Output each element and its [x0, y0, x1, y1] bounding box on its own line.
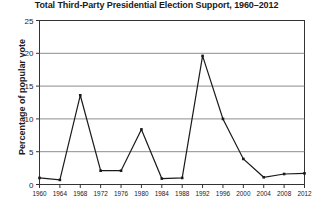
data-point-2000-3.9: [242, 158, 245, 161]
x-tick-label-2008: 2008: [277, 190, 292, 197]
x-tick-label-2012: 2012: [297, 190, 312, 197]
data-point-1960-1: [38, 177, 41, 180]
y-axis-ticks: 0510152025: [25, 17, 40, 190]
data-point-1972-2.1: [99, 169, 102, 172]
plot-frame: [40, 21, 305, 185]
y-tick-label-5: 5: [29, 148, 34, 157]
y-tick-label-25: 25: [25, 17, 34, 26]
data-point-2012-1.7: [303, 172, 306, 175]
x-tick-label-1988: 1988: [175, 190, 190, 197]
data-point-1968-13.6: [79, 94, 82, 97]
x-tick-label-1964: 1964: [53, 190, 68, 197]
data-point-1988-1: [181, 177, 184, 180]
data-point-2004-1.1: [262, 176, 265, 179]
data-point-1980-8.4: [140, 128, 143, 131]
x-tick-label-2004: 2004: [257, 190, 272, 197]
x-tick-label-1980: 1980: [134, 190, 149, 197]
x-tick-label-1960: 1960: [32, 190, 47, 197]
x-tick-label-1984: 1984: [155, 190, 170, 197]
x-tick-label-1992: 1992: [195, 190, 210, 197]
x-axis-ticks: 1960196419681972197619801984198819921996…: [32, 185, 312, 198]
y-tick-label-0: 0: [29, 181, 34, 190]
y-tick-label-20: 20: [25, 49, 34, 58]
data-point-1992-19.6: [201, 55, 204, 58]
x-tick-label-1996: 1996: [216, 190, 231, 197]
data-point-1984-0.9: [161, 177, 164, 180]
y-tick-label-10: 10: [25, 115, 34, 124]
plot-area: 0510152025 19601964196819721976198019841…: [0, 0, 313, 199]
x-tick-label-2000: 2000: [236, 190, 251, 197]
data-point-1976-2.1: [120, 169, 123, 172]
data-point-1996-10: [222, 118, 225, 121]
x-tick-label-1968: 1968: [73, 190, 88, 197]
data-point-1964-0.7: [59, 179, 62, 182]
x-tick-label-1976: 1976: [114, 190, 129, 197]
y-tick-label-15: 15: [25, 82, 34, 91]
x-tick-label-1972: 1972: [94, 190, 109, 197]
data-point-2008-1.6: [283, 173, 286, 176]
chart-container: Total Third-Party Presidential Election …: [0, 0, 313, 199]
